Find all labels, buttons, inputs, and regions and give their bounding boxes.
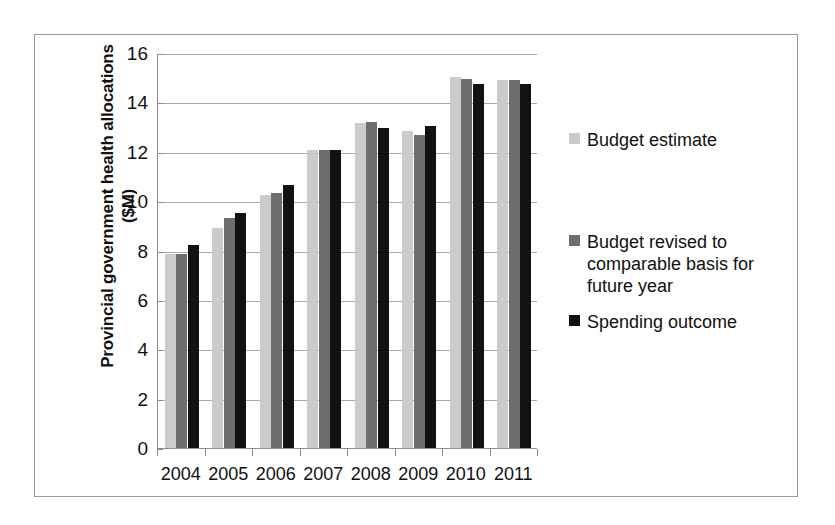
y-tick-mark (157, 153, 163, 154)
bar-2008-series-2[interactable] (378, 128, 389, 448)
y-tick-label: 12 (127, 142, 148, 164)
legend-item-0[interactable]: Budget estimate (569, 129, 717, 151)
legend-label: Budget revised to comparable basis for f… (587, 231, 784, 297)
y-tick-mark (157, 202, 163, 203)
bar-2006-series-2[interactable] (283, 185, 294, 448)
bar-2004-series-1[interactable] (176, 254, 187, 448)
y-tick-mark (157, 301, 163, 302)
bar-2006-series-0[interactable] (260, 195, 271, 448)
x-tick-label-2007: 2007 (303, 464, 343, 485)
y-tick-mark (157, 54, 163, 55)
x-tick-label-2004: 2004 (161, 464, 201, 485)
bar-2010-series-2[interactable] (473, 84, 484, 448)
y-tick-mark (157, 400, 163, 401)
gridline (157, 54, 537, 55)
x-tick-label-2006: 2006 (256, 464, 296, 485)
bar-2007-series-1[interactable] (319, 150, 330, 448)
x-tick-label-2005: 2005 (208, 464, 248, 485)
bar-2007-series-2[interactable] (330, 150, 341, 448)
bar-2007-series-0[interactable] (307, 150, 318, 448)
x-tick-label-2008: 2008 (351, 464, 391, 485)
x-tick-label-2011: 2011 (494, 464, 533, 485)
x-tick-mark (442, 449, 443, 456)
y-tick-label: 4 (137, 339, 148, 361)
x-tick-mark (395, 449, 396, 456)
bar-2011-series-2[interactable] (520, 84, 531, 448)
legend-swatch-icon (569, 315, 580, 326)
bar-2005-series-2[interactable] (235, 213, 246, 448)
x-tick-mark (157, 449, 158, 456)
bar-2008-series-0[interactable] (355, 123, 366, 448)
x-tick-mark (537, 449, 538, 456)
bar-2011-series-0[interactable] (497, 80, 508, 448)
bar-2009-series-0[interactable] (402, 131, 413, 448)
y-tick-label: 2 (137, 389, 148, 411)
x-tick-mark (347, 449, 348, 456)
bar-2008-series-1[interactable] (366, 122, 377, 448)
bar-2009-series-2[interactable] (425, 126, 436, 448)
bar-2010-series-0[interactable] (450, 77, 461, 448)
bar-2004-series-0[interactable] (165, 254, 176, 448)
bar-2010-series-1[interactable] (461, 79, 472, 448)
legend-swatch-icon (569, 235, 580, 246)
legend-swatch-icon (569, 133, 580, 144)
legend-item-2[interactable]: Spending outcome (569, 311, 737, 333)
y-tick-label: 14 (127, 92, 148, 114)
y-tick-mark (157, 103, 163, 104)
x-tick-mark (490, 449, 491, 456)
x-tick-mark (300, 449, 301, 456)
bar-2006-series-1[interactable] (271, 193, 282, 448)
legend-label: Budget estimate (587, 129, 717, 151)
y-tick-label: 10 (127, 191, 148, 213)
bar-2009-series-1[interactable] (414, 135, 425, 448)
legend-item-1[interactable]: Budget revised to comparable basis for f… (569, 231, 784, 297)
y-tick-label: 8 (137, 241, 148, 263)
x-tick-mark (252, 449, 253, 456)
y-tick-label: 0 (137, 438, 148, 460)
x-tick-label-2009: 2009 (398, 464, 438, 485)
x-tick-label-2010: 2010 (446, 464, 486, 485)
y-tick-label: 16 (127, 43, 148, 65)
y-tick-mark (157, 350, 163, 351)
bar-2004-series-2[interactable] (188, 245, 199, 448)
y-tick-mark (157, 252, 163, 253)
bar-2005-series-1[interactable] (224, 218, 235, 448)
plot-area: 0246810121416 20042005200620072008200920… (157, 54, 537, 449)
bar-2011-series-1[interactable] (509, 80, 520, 448)
legend-label: Spending outcome (587, 311, 737, 333)
y-tick-label: 6 (137, 290, 148, 312)
bar-2005-series-0[interactable] (212, 228, 223, 448)
x-tick-mark (205, 449, 206, 456)
figure-frame: Provincial government health allocations… (34, 34, 798, 497)
